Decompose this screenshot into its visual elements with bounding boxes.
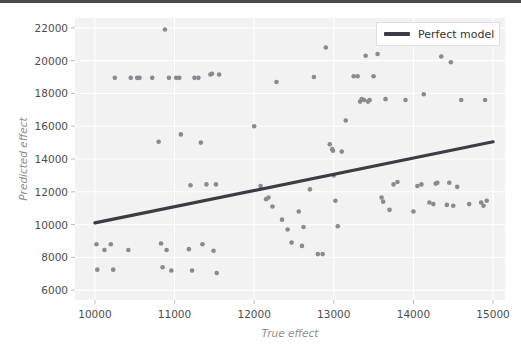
scatter-point [427,200,432,205]
scatter-point [270,204,275,209]
scatter-point [421,92,426,97]
y-tick-label: 18000 [20,87,68,99]
scatter-point [363,53,368,58]
scatter-point [214,182,219,187]
scatter-point [439,54,444,59]
x-tick-label: 14000 [397,308,430,320]
scatter-point [217,72,222,77]
y-tick-label: 20000 [20,55,68,67]
y-tick-label: 10000 [20,219,68,231]
figure-canvas: 6000800010000120001400016000180002000022… [0,0,521,355]
scatter-point [431,202,436,207]
scatter-point [300,244,305,249]
scatter-point [296,209,301,214]
scatter-point [320,252,325,257]
scatter-point [137,76,142,81]
scatter-point [451,203,456,208]
scatter-point [211,249,216,254]
scatter-point [484,199,489,204]
x-axis-label: True effect [262,327,319,339]
y-tick-label: 8000 [20,251,68,263]
scatter-point [192,76,197,81]
scatter-point [160,265,165,270]
scatter-point [164,248,169,253]
scatter-point [403,98,408,103]
scatter-point [395,180,400,185]
scatter-point [289,240,294,245]
scatter-point [371,74,376,79]
scatter-point [351,74,356,79]
scatter-point [375,52,380,57]
scatter-point [481,203,486,208]
scatter-point [102,248,107,253]
scatter-point [301,225,306,230]
scatter-point [411,209,416,214]
scatter-point [331,149,336,154]
scatter-point [467,202,472,207]
scatter-point [415,184,420,189]
scatter-point [214,271,219,276]
scatter-point [196,76,201,81]
scatter-point [335,224,340,229]
scatter-point [94,242,99,247]
scatter-point [128,76,133,81]
scatter-point [379,195,384,200]
scatter-point [387,208,392,213]
scatter-point [190,268,195,273]
legend-box: Perfect model [376,22,500,46]
scatter-point [339,149,344,154]
scatter-point [199,140,204,145]
scatter-plot: 6000800010000120001400016000180002000022… [0,0,521,355]
scatter-point [362,98,367,103]
scatter-point [95,267,100,272]
scatter-point [343,118,348,123]
scatter-point [449,60,454,65]
scatter-point [252,124,257,129]
scatter-point [204,182,209,187]
scatter-point [455,185,460,190]
scatter-point [324,45,329,50]
legend-label-perfect-model: Perfect model [418,28,494,41]
scatter-point [333,199,338,204]
scatter-point [285,227,290,232]
y-tick-label: 6000 [20,284,68,296]
scatter-point [169,268,174,273]
scatter-point [126,248,131,253]
scatter-point [187,247,192,252]
scatter-point [163,27,168,32]
scatter-point [177,76,182,81]
scatter-point [483,98,488,103]
scatter-point [312,75,317,80]
scatter-point [459,98,464,103]
scatter-point [150,76,155,81]
scatter-point [383,97,388,102]
scatter-point [435,180,440,185]
x-tick-label: 10000 [78,308,111,320]
scatter-point [419,182,424,187]
scatter-point [355,74,360,79]
x-tick-label: 15000 [476,308,509,320]
scatter-point [111,267,116,272]
scatter-point [316,252,321,257]
scatter-point [156,139,161,144]
scatter-point [280,217,285,222]
y-axis-label: Predicted effect [17,117,29,200]
scatter-point [159,241,164,246]
scatter-point [447,180,452,185]
scatter-point [445,203,450,208]
scatter-point [167,76,172,81]
scatter-point [391,182,396,187]
scatter-point [188,183,193,188]
scatter-point [210,71,215,76]
scatter-point [266,195,271,200]
scatter-point [328,142,333,147]
scatter-point [109,242,114,247]
x-tick-label: 11000 [158,308,191,320]
x-tick-label: 12000 [237,308,270,320]
scatter-point [200,242,205,247]
scatter-point [274,80,279,85]
scatter-point [113,76,118,81]
scatter-point [179,132,184,137]
scatter-point [308,187,313,192]
legend-line-swatch [384,32,410,36]
